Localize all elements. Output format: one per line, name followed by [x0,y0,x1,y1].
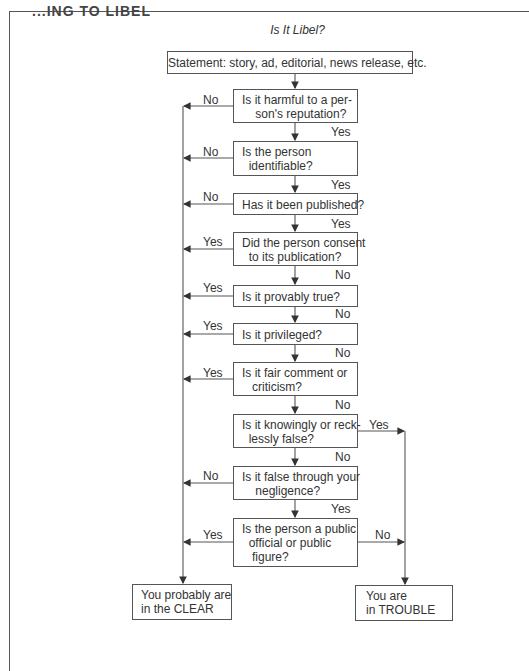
branch-label-q6-down: No [335,346,350,360]
question-box-privileged: Is it privileged? [233,323,358,345]
question-text: Is it privileged? [242,328,357,342]
branch-label-q1-down: Yes [331,125,351,139]
question-text: Has it been published? [242,198,357,212]
outcome-clear-box: You probably are in the CLEAR [132,584,232,620]
question-box-public-figure: Is the person a public official or publi… [233,518,358,567]
branch-label-q7-down: No [335,398,350,412]
question-box-fair-comment: Is it fair comment or criticism? [233,362,358,396]
branch-label-q1-left: No [203,93,218,107]
branch-label-q10-left: Yes [203,528,223,542]
branch-label-q4-down: No [335,268,350,282]
question-text: Is the person a public official or publi… [242,522,357,564]
question-text: Is it provably true? [242,290,357,304]
outcome-clear-text: You probably are in the CLEAR [141,588,231,616]
question-text: Is it knowingly or reck- lessly false? [242,418,357,446]
question-box-published: Has it been published? [233,193,358,215]
outcome-trouble-box: You are in TROUBLE [355,585,453,621]
outcome-trouble-text: You are in TROUBLE [366,589,452,617]
start-statement-label: Statement: story, ad, editorial, news re… [168,56,412,70]
question-box-harmful: Is it harmful to a per- son's reputation… [233,89,358,123]
question-box-knowingly-false: Is it knowingly or reck- lessly false? [233,414,358,448]
question-box-identifiable: Is the person identifiable? [233,141,358,176]
branch-label-q9-down: Yes [331,502,351,516]
branch-label-q7-left: Yes [203,366,223,380]
branch-label-q8-right: Yes [369,418,389,432]
branch-label-q5-left: Yes [203,281,223,295]
question-text: Is it false through your negligence? [242,470,357,498]
question-box-negligence: Is it false through your negligence? [233,466,358,500]
branch-label-q2-left: No [203,145,218,159]
start-statement-box: Statement: story, ad, editorial, news re… [167,51,413,74]
question-text: Is it harmful to a per- son's reputation… [242,93,357,121]
branch-label-q4-left: Yes [203,235,223,249]
question-text: Did the person consent to its publicatio… [242,236,357,264]
branch-label-q6-left: Yes [203,319,223,333]
branch-label-q3-down: Yes [331,217,351,231]
question-box-provably-true: Is it provably true? [233,285,358,307]
question-text: Is it fair comment or criticism? [242,366,357,394]
branch-label-q8-down: No [335,450,350,464]
branch-label-q5-down: No [335,307,350,321]
branch-label-q3-left: No [203,190,218,204]
question-box-consent: Did the person consent to its publicatio… [233,232,358,266]
branch-label-q10-right: No [375,528,390,542]
question-text: Is the person identifiable? [242,145,357,173]
branch-label-q9-left: No [203,469,218,483]
branch-label-q2-down: Yes [331,178,351,192]
